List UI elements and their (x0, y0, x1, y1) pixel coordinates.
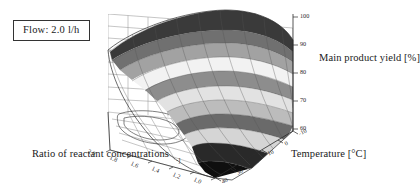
z-tick-label: 100 (300, 13, 309, 19)
z-tick-label: 70 (300, 97, 306, 103)
z-tick-label: 90 (300, 41, 306, 47)
flow-annotation-box: Flow: 2.0 l/h (13, 20, 90, 41)
left-vertical-edge (108, 112, 110, 150)
y-axis-title: Ratio of reactant concentrations (32, 148, 182, 160)
z-tick-label: 80 (300, 69, 306, 75)
z-axis-title: Main product yield [%] (319, 52, 420, 64)
y-axis-unit-marker: -] (176, 156, 180, 163)
flow-annotation-label: Flow: 2.0 l/h (23, 24, 80, 35)
x-axis-title: Temperature [°C] (291, 148, 366, 160)
